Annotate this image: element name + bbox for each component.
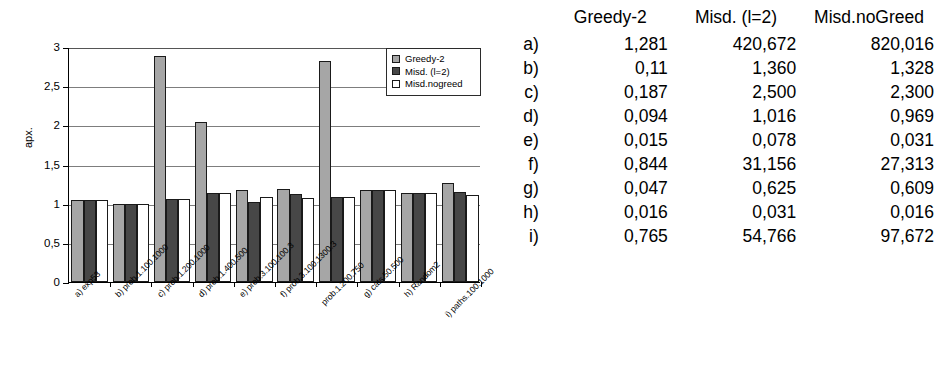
x-axis-labels: a) exp53b) prob.1.100.1000c) prob.1.200.… <box>68 286 480 392</box>
legend-label: Misd. (l=2) <box>405 67 450 77</box>
y-tick-label: 2 <box>54 121 60 133</box>
bar <box>442 183 454 282</box>
table-cell: 0,187 <box>549 80 672 104</box>
table-cell: 0,016 <box>549 200 672 224</box>
table-corner-cell <box>496 6 549 32</box>
row-label: g) <box>496 176 549 200</box>
legend-item: Greedy-2 <box>392 54 476 64</box>
bar-chart: apx. 00,511,522,53 a) exp53b) prob.1.100… <box>0 0 500 392</box>
table-cell: 31,156 <box>672 152 800 176</box>
bar <box>466 195 478 282</box>
bar <box>71 200 83 282</box>
legend-item: Misd.nogreed <box>392 79 476 89</box>
table-cell: 420,672 <box>672 32 800 56</box>
bar <box>236 190 248 282</box>
table-header-row: Greedy-2 Misd. (l=2) Misd.noGreed <box>496 6 938 32</box>
y-tick-label: 0,5 <box>44 238 60 250</box>
table-cell: 97,672 <box>800 224 938 248</box>
table-cell: 1,281 <box>549 32 672 56</box>
table-row: b)0,111,3601,328 <box>496 56 938 80</box>
table-row: g)0,0470,6250,609 <box>496 176 938 200</box>
legend-item: Misd. (l=2) <box>392 67 476 77</box>
column-header-misd-l2: Misd. (l=2) <box>672 6 800 32</box>
row-label: d) <box>496 104 549 128</box>
table-cell: 0,625 <box>672 176 800 200</box>
bar <box>454 192 466 282</box>
column-header-misd-nogreed: Misd.noGreed <box>800 6 938 32</box>
table-cell: 0,031 <box>672 200 800 224</box>
table-cell: 1,360 <box>672 56 800 80</box>
column-header-greedy2: Greedy-2 <box>549 6 672 32</box>
bar <box>372 190 384 282</box>
table-cell: 54,766 <box>672 224 800 248</box>
legend-label: Greedy-2 <box>405 54 445 64</box>
table-row: c)0,1872,5002,300 <box>496 80 938 104</box>
bar <box>277 189 289 282</box>
table-row: d)0,0941,0160,969 <box>496 104 938 128</box>
bar <box>113 204 125 282</box>
row-label: i) <box>496 224 549 248</box>
results-table: Greedy-2 Misd. (l=2) Misd.noGreed a)1,28… <box>496 6 938 248</box>
table-cell: 0,031 <box>800 128 938 152</box>
y-tick-label: 1 <box>54 199 60 211</box>
table-cell: 0,015 <box>549 128 672 152</box>
y-tick-label: 1,5 <box>44 160 60 172</box>
table-cell: 0,765 <box>549 224 672 248</box>
table-body: a)1,281420,672820,016b)0,111,3601,328c)0… <box>496 32 938 248</box>
chart-legend: Greedy-2Misd. (l=2)Misd.nogreed <box>386 48 481 96</box>
row-label: f) <box>496 152 549 176</box>
table-row: h)0,0160,0310,016 <box>496 200 938 224</box>
table-cell: 0,844 <box>549 152 672 176</box>
y-tick-label: 0 <box>54 277 60 289</box>
table-row: e)0,0150,0780,031 <box>496 128 938 152</box>
table-cell: 0,047 <box>549 176 672 200</box>
legend-swatch-icon <box>392 55 400 63</box>
y-tick-label: 3 <box>54 42 60 54</box>
y-axis-label: apx. <box>22 127 34 148</box>
table-cell: 0,11 <box>549 56 672 80</box>
table-row: a)1,281420,672820,016 <box>496 32 938 56</box>
legend-swatch-icon <box>392 67 400 75</box>
figure-root: apx. 00,511,522,53 a) exp53b) prob.1.100… <box>0 0 952 392</box>
legend-swatch-icon <box>392 80 400 88</box>
row-label: b) <box>496 56 549 80</box>
table-cell: 0,094 <box>549 104 672 128</box>
table-cell: 0,609 <box>800 176 938 200</box>
table-row: f)0,84431,15627,313 <box>496 152 938 176</box>
row-label: e) <box>496 128 549 152</box>
bar <box>401 193 413 282</box>
row-label: a) <box>496 32 549 56</box>
table-cell: 820,016 <box>800 32 938 56</box>
table-cell: 1,016 <box>672 104 800 128</box>
legend-label: Misd.nogreed <box>405 79 463 89</box>
table-cell: 27,313 <box>800 152 938 176</box>
table-cell: 2,300 <box>800 80 938 104</box>
table-cell: 0,078 <box>672 128 800 152</box>
bar <box>96 200 108 282</box>
row-label: h) <box>496 200 549 224</box>
y-tick-label: 2,5 <box>44 81 60 93</box>
table-cell: 2,500 <box>672 80 800 104</box>
table-cell: 0,969 <box>800 104 938 128</box>
table-row: i)0,76554,76697,672 <box>496 224 938 248</box>
table-cell: 0,016 <box>800 200 938 224</box>
row-label: c) <box>496 80 549 104</box>
results-table-wrap: Greedy-2 Misd. (l=2) Misd.noGreed a)1,28… <box>496 6 948 248</box>
y-tick <box>63 283 69 284</box>
table-cell: 1,328 <box>800 56 938 80</box>
